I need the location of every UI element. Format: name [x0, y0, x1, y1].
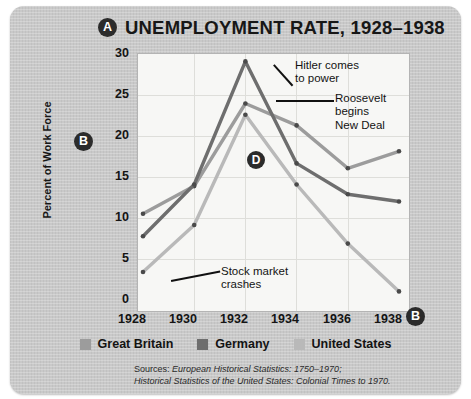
data-point	[141, 270, 146, 275]
data-point	[397, 149, 402, 154]
callout-badge-a: A	[98, 18, 117, 37]
legend-swatch-great-britain	[80, 339, 91, 350]
legend-label-great-britain: Great Britain	[98, 337, 174, 351]
legend-item-united-states: United States	[294, 337, 392, 351]
y-axis-label: Percent of Work Force	[41, 95, 53, 225]
callout-badge-d: D	[247, 151, 265, 169]
sources-prefix: Sources:	[134, 364, 172, 374]
x-tick-1928: 1928	[104, 312, 160, 326]
legend: Great Britain Germany United States	[10, 337, 461, 351]
sources-line-1: Sources: European Historical Statistics:…	[134, 363, 444, 375]
data-point	[346, 192, 351, 197]
y-tick-25: 25	[95, 87, 129, 101]
chart-title: UNEMPLOYMENT RATE, 1928–1938	[125, 17, 445, 39]
y-tick-0: 0	[95, 292, 129, 306]
callout-badge-b-yaxis: B	[74, 132, 93, 151]
y-tick-15: 15	[95, 169, 129, 183]
legend-label-germany: Germany	[215, 337, 269, 351]
legend-swatch-germany	[197, 339, 208, 350]
y-tick-20: 20	[95, 128, 129, 142]
annotation-stock-crash: Stock market crashes	[221, 265, 288, 292]
annotation-roosevelt: Roosevelt begins New Deal	[335, 92, 386, 132]
data-point	[346, 166, 351, 171]
data-point	[192, 182, 197, 187]
legend-item-germany: Germany	[197, 337, 269, 351]
sources-title-2: Historical Statistics of the United Stat…	[134, 376, 391, 386]
data-point	[397, 289, 402, 294]
chart-card: A B B UNEMPLOYMENT RATE, 1928–1938 Perce…	[10, 6, 461, 394]
data-point	[294, 161, 299, 166]
legend-item-great-britain: Great Britain	[80, 337, 174, 351]
x-tick-1932: 1932	[206, 312, 262, 326]
data-point	[141, 234, 146, 239]
data-point	[192, 223, 197, 228]
callout-badge-b-xaxis: B	[406, 307, 425, 326]
data-point	[397, 199, 402, 204]
y-tick-5: 5	[95, 251, 129, 265]
legend-swatch-united-states	[294, 339, 305, 350]
legend-label-united-states: United States	[312, 337, 392, 351]
sources-title-1: European Historical Statistics: 1750–197…	[172, 364, 342, 374]
data-point	[141, 211, 146, 216]
sources-note: Sources: European Historical Statistics:…	[134, 363, 444, 387]
data-point	[346, 241, 351, 246]
data-point	[243, 101, 248, 106]
y-tick-30: 30	[95, 46, 129, 60]
annotation-hitler: Hitler comes to power	[295, 59, 359, 86]
y-tick-10: 10	[95, 210, 129, 224]
data-point	[294, 123, 299, 128]
x-tick-1936: 1936	[309, 312, 365, 326]
data-point	[243, 113, 248, 118]
data-point	[294, 182, 299, 187]
x-tick-1930: 1930	[155, 312, 211, 326]
x-tick-1934: 1934	[257, 312, 313, 326]
leader-line-roosevelt	[276, 100, 334, 102]
sources-line-2: Historical Statistics of the United Stat…	[134, 375, 444, 387]
data-point	[243, 59, 248, 64]
